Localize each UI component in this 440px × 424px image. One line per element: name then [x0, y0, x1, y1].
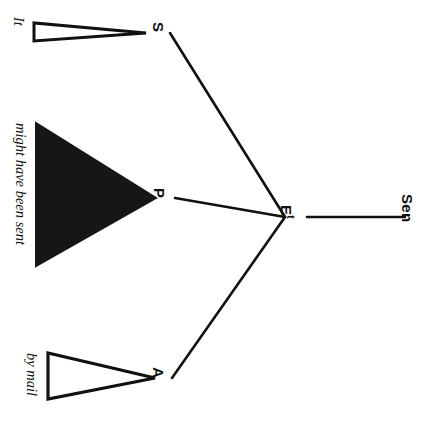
edge-root-to-subject — [170, 33, 285, 217]
edge-root-to-adjunct — [172, 217, 285, 378]
node-root-base: E — [278, 205, 295, 215]
tree-edges-and-triangles — [0, 0, 440, 424]
triangle-leaf-adjunct — [48, 353, 155, 399]
node-label-adjunct: A — [150, 367, 167, 378]
node-label-predicate: P — [151, 188, 168, 198]
node-root-superscript: t — [285, 215, 296, 219]
triangle-leaf-subject — [34, 23, 146, 41]
leaf-label-adjunct: by mail — [23, 353, 40, 396]
node-label-sentence: Sen — [399, 194, 416, 222]
leaf-label-subject: It — [10, 17, 27, 26]
node-label-subject: S — [150, 22, 167, 32]
node-label-root: Et — [278, 205, 296, 219]
syntax-tree-diagram: It might have been sent by mail S P A Et… — [0, 0, 440, 424]
edge-root-to-predicate — [175, 198, 285, 217]
leaf-label-predicate: might have been sent — [12, 123, 29, 245]
triangle-leaf-predicate — [36, 123, 156, 266]
